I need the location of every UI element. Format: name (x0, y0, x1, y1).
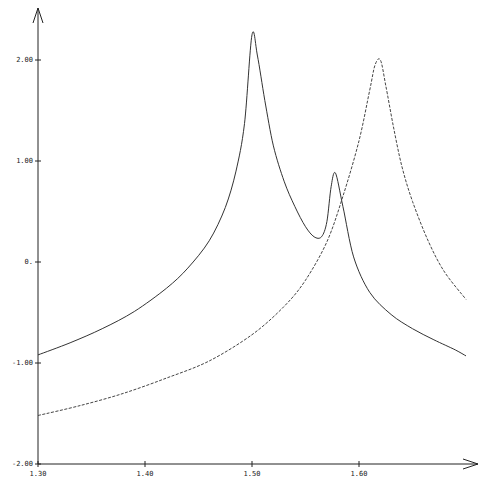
y-axis-ticks: 2.001.000.-1.00-2.00 (12, 56, 41, 468)
series-layer (38, 32, 466, 416)
y-tick-label: -1.00 (12, 359, 33, 367)
y-tick-label: 1.00 (16, 157, 33, 165)
y-axis: 2.001.000.-1.00-2.00 (12, 8, 43, 468)
x-tick-label: 1.30 (30, 470, 47, 478)
series-dashed-line (38, 59, 466, 416)
y-tick-label: -2.00 (12, 460, 33, 468)
x-tick-label: 1.60 (351, 470, 368, 478)
y-tick-label: 0. (25, 258, 33, 266)
y-tick-label: 2.00 (16, 56, 33, 64)
x-tick-label: 1.50 (244, 470, 261, 478)
line-chart: 2.001.000.-1.00-2.00 1.301.401.501.60 (0, 0, 485, 490)
series-solid-line (38, 32, 466, 356)
x-tick-label: 1.40 (137, 470, 154, 478)
x-axis: 1.301.401.501.60 (30, 459, 478, 478)
